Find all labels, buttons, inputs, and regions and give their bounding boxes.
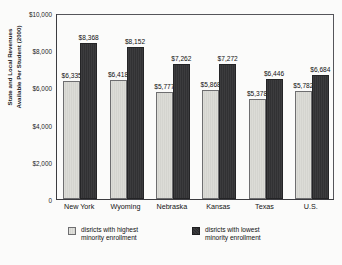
chart-legend: disricts with highest minority enrollmen… bbox=[56, 226, 334, 252]
y-axis-tick-8000: $8,000 bbox=[18, 48, 52, 55]
legend-label-lowest-line-2: minority enrollment bbox=[205, 234, 261, 241]
bar-group-new-york: $6,335$8,368 bbox=[63, 15, 97, 199]
bar-group-nebraska: $5,777$7,262 bbox=[156, 15, 190, 199]
bar-lowest-5[interactable] bbox=[312, 75, 329, 199]
bar-highest-5[interactable] bbox=[295, 91, 312, 199]
legend-label-highest-line-2: minority enrollment bbox=[81, 234, 137, 241]
legend-label-lowest-minority: disricts with lowest minority enrollment bbox=[205, 226, 261, 243]
bar-value-label-lowest-3: $7,272 bbox=[208, 55, 248, 62]
bar-value-label-lowest-2: $7,262 bbox=[161, 55, 201, 62]
y-axis-tick-2000: $2,000 bbox=[18, 159, 52, 166]
y-axis-tick-0: 0 bbox=[18, 197, 52, 204]
legend-swatch-dark-icon bbox=[192, 227, 200, 235]
bar-lowest-1[interactable] bbox=[127, 47, 144, 199]
bar-group-kansas: $5,868$7,272 bbox=[202, 15, 236, 199]
bar-value-label-lowest-1: $8,152 bbox=[115, 38, 155, 45]
plot-area: $6,335$8,368$6,418$8,152$5,777$7,262$5,8… bbox=[56, 14, 334, 200]
bar-highest-2[interactable] bbox=[156, 92, 173, 199]
legend-swatch-light-icon bbox=[68, 227, 76, 235]
bar-lowest-3[interactable] bbox=[219, 64, 236, 199]
legend-label-highest-line-1: disricts with highest bbox=[81, 226, 138, 233]
bar-group-texas: $5,378$6,446 bbox=[249, 15, 283, 199]
bar-group-wyoming: $6,418$8,152 bbox=[110, 15, 144, 199]
bar-value-label-lowest-4: $6,446 bbox=[254, 70, 294, 77]
bar-value-label-lowest-5: $6,684 bbox=[300, 66, 340, 73]
bar-highest-1[interactable] bbox=[110, 80, 127, 199]
y-axis-tick-10000: $10,000 bbox=[18, 11, 52, 18]
y-axis-title-line-1: State and Local Revenues bbox=[5, 0, 14, 137]
legend-label-lowest-line-1: disricts with lowest bbox=[205, 226, 260, 233]
bar-lowest-2[interactable] bbox=[173, 64, 190, 199]
x-axis-tick-labels: New YorkWyomingNebraskaKansasTexasU.S. bbox=[56, 202, 334, 216]
bar-group-u-s: $5,782$6,684 bbox=[295, 15, 329, 199]
bar-lowest-4[interactable] bbox=[266, 79, 283, 199]
bar-lowest-0[interactable] bbox=[80, 43, 97, 199]
legend-item-highest-minority[interactable]: disricts with highest minority enrollmen… bbox=[68, 226, 138, 243]
bar-chart-figure: State and Local Revenues Available Per S… bbox=[0, 0, 342, 265]
y-axis-tick-labels: $10,000 $8,000 $6,000 $4,000 $2,000 0 bbox=[16, 0, 52, 265]
y-axis-tick-6000: $6,000 bbox=[18, 85, 52, 92]
legend-label-highest-minority: disricts with highest minority enrollmen… bbox=[81, 226, 138, 243]
y-axis-tick-4000: $4,000 bbox=[18, 122, 52, 129]
bar-value-label-lowest-0: $8,368 bbox=[69, 34, 109, 41]
bar-highest-0[interactable] bbox=[63, 81, 80, 199]
x-axis-tick-u-s: U.S. bbox=[281, 202, 341, 211]
bar-highest-3[interactable] bbox=[202, 90, 219, 199]
legend-item-lowest-minority[interactable]: disricts with lowest minority enrollment bbox=[192, 226, 261, 243]
bar-highest-4[interactable] bbox=[249, 99, 266, 199]
